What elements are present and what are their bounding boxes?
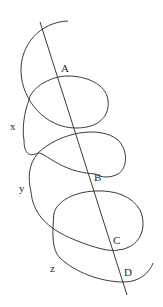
turn-label-x: x [10, 120, 16, 132]
turn-label-z: z [50, 262, 55, 274]
helix-curve-lower [29, 153, 153, 282]
turn-label-y: y [19, 182, 25, 194]
point-label-d: D [124, 266, 132, 278]
point-label-b: B [94, 171, 101, 183]
axis-line [40, 22, 127, 295]
helix-diagram: A B C D x y z [0, 0, 163, 307]
point-label-a: A [61, 62, 69, 74]
point-label-c: C [113, 234, 120, 246]
helix-curve [21, 21, 108, 174]
